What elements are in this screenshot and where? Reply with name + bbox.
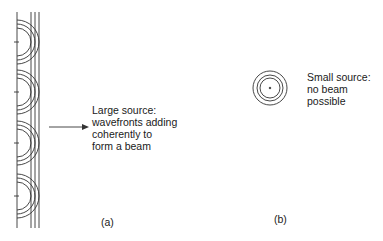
panel-b-label: Small source: no beam possible	[307, 71, 371, 107]
panel-a-label: Large source: wavefronts adding coherent…	[92, 104, 177, 152]
panel-b-small-source	[253, 71, 287, 105]
panel-a-caption: (a)	[101, 216, 114, 228]
point-source-dot	[269, 87, 271, 89]
source-ticks	[14, 42, 19, 196]
panel-b-caption: (b)	[274, 213, 287, 225]
arrow-head-icon	[82, 124, 89, 130]
panel-a-large-source	[14, 12, 89, 228]
diagram-canvas	[0, 0, 383, 241]
semicircle-wavefronts	[17, 20, 39, 218]
plane-wave-envelope	[31, 12, 39, 228]
